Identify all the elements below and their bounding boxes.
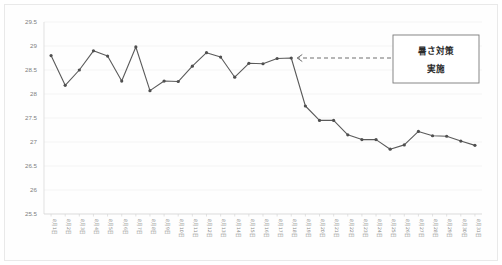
x-axis-tick-label: 8月9日 [164, 219, 170, 235]
x-axis-tick-label: 8月8日 [150, 219, 156, 235]
x-axis-tick-label: 8月11日 [192, 219, 198, 238]
annotation-text-line-2: 実施 [427, 63, 445, 74]
x-axis-tick-label: 8月29日 [446, 219, 452, 238]
data-point [360, 138, 363, 141]
x-axis-tick-label: 8月27日 [418, 219, 424, 238]
data-point [191, 65, 194, 68]
x-axis-tick-label: 8月4日 [93, 219, 99, 235]
data-point [247, 62, 250, 65]
x-axis-tick-label: 8月21日 [333, 219, 339, 238]
x-axis-tick-label: 8月22日 [348, 219, 354, 238]
data-point [374, 138, 377, 141]
data-point [431, 134, 434, 137]
x-axis-tick-label: 8月31日 [475, 219, 481, 238]
data-point [473, 144, 476, 147]
data-point [459, 139, 462, 142]
y-axis-tick-label: 29 [30, 42, 37, 49]
data-point [233, 76, 236, 79]
x-axis-tick-label: 8月25日 [390, 219, 396, 238]
chart-card: 29.52928.52827.52726.52625.5 8月1日8月2日8月3… [0, 0, 502, 265]
x-axis-tick-label: 8月15日 [249, 219, 255, 238]
y-axis-tick-label: 26.5 [25, 162, 38, 169]
x-axis-tick-label: 8月6日 [122, 219, 128, 235]
data-point [92, 49, 95, 52]
y-axis-tick-labels: 29.52928.52827.52726.52625.5 [25, 18, 38, 217]
data-point [261, 62, 264, 65]
data-point [134, 45, 137, 48]
annotation-box [393, 35, 479, 83]
x-axis-tick-label: 8月13日 [220, 219, 226, 238]
annotation-text-line-1: 暑さ対策 [417, 45, 454, 56]
x-axis-tick-label: 8月28日 [432, 219, 438, 238]
x-axis-tick-label: 8月26日 [404, 219, 410, 238]
y-axis-tick-label: 26 [30, 186, 37, 193]
x-axis-tick-label: 8月17日 [277, 219, 283, 238]
y-axis-tick-label: 27 [30, 138, 37, 145]
data-point [389, 148, 392, 151]
x-axis-tick-label: 8月24日 [376, 219, 382, 238]
data-point [148, 89, 151, 92]
data-point [403, 143, 406, 146]
x-axis-tick-label: 8月18日 [291, 219, 297, 238]
data-point [276, 57, 279, 60]
data-point [332, 119, 335, 122]
x-axis-tick-label: 8月2日 [65, 219, 71, 235]
x-axis-tick-label: 8月14日 [235, 219, 241, 238]
x-axis-tick-label: 8月7日 [136, 219, 142, 235]
x-axis-tick-labels: 8月1日8月2日8月3日8月4日8月5日8月6日8月7日8月8日8月9日8月10… [51, 214, 481, 238]
data-point [205, 51, 208, 54]
x-axis-tick-label: 8月20日 [319, 219, 325, 238]
x-axis-tick-label: 8月10日 [178, 219, 184, 238]
x-axis-tick-label: 8月1日 [51, 219, 57, 235]
x-axis-tick-label: 8月16日 [263, 219, 269, 238]
data-point [78, 68, 81, 71]
data-point [346, 133, 349, 136]
annotation-group: 暑さ対策実施 [297, 35, 479, 83]
y-axis-tick-label: 29.5 [25, 18, 38, 25]
y-axis-tick-label: 28 [30, 90, 37, 97]
x-axis-tick-label: 8月12日 [206, 219, 212, 238]
x-axis-tick-label: 8月5日 [107, 219, 113, 235]
y-axis-tick-label: 25.5 [25, 210, 38, 217]
data-point [64, 84, 67, 87]
data-point [318, 119, 321, 122]
data-point [445, 135, 448, 138]
x-axis-tick-label: 8月19日 [305, 219, 311, 238]
y-axis-tick-label: 27.5 [25, 114, 38, 121]
data-point [417, 130, 420, 133]
line-chart: 29.52928.52827.52726.52625.5 8月1日8月2日8月3… [0, 0, 502, 265]
data-point [49, 54, 52, 57]
x-axis-tick-label: 8月23日 [362, 219, 368, 238]
data-point [219, 55, 222, 58]
x-axis-tick-label: 8月30日 [461, 219, 467, 238]
x-axis-tick-label: 8月3日 [79, 219, 85, 235]
data-point [304, 104, 307, 107]
data-point [290, 56, 293, 59]
y-axis-tick-label: 28.5 [25, 66, 38, 73]
data-point [120, 79, 123, 82]
data-point [177, 80, 180, 83]
data-point [162, 79, 165, 82]
data-point [106, 54, 109, 57]
